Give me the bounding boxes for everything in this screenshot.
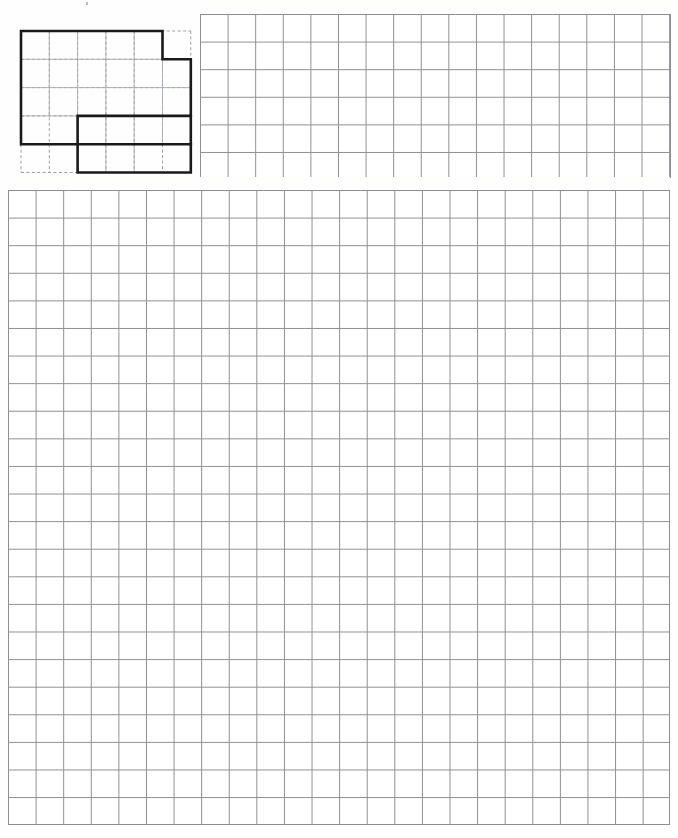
rectilinear-polygon-svg: [0, 0, 200, 185]
worksheet-page: [0, 0, 678, 838]
shape-interior-grid: [21, 31, 191, 173]
main-answer-grid[interactable]: [8, 190, 670, 825]
shape-figure-panel: [0, 0, 200, 185]
upper-right-grid[interactable]: [200, 14, 670, 177]
